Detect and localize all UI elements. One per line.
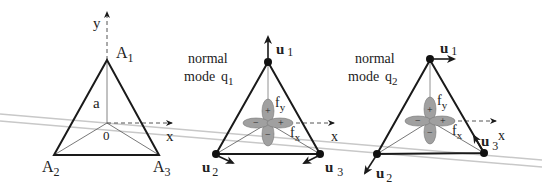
u2-label: u2	[202, 159, 218, 179]
svg-text:+: +	[265, 105, 271, 116]
vertex-label-a2: A2	[42, 158, 60, 179]
u1-label: u1	[276, 41, 293, 59]
svg-text:−: −	[427, 127, 433, 138]
origin-label: 0	[103, 128, 110, 143]
svg-text:+: +	[278, 117, 284, 128]
height-label: a	[93, 95, 100, 111]
svg-text:+: +	[440, 115, 446, 126]
u3-label: u3	[325, 159, 343, 179]
u1-label: u1	[440, 40, 457, 58]
svg-text:−: −	[253, 117, 259, 128]
fx-label: fx	[290, 125, 301, 143]
displacement-arrow-u3	[304, 156, 318, 163]
displacement-arrow-u2	[365, 156, 376, 173]
u2-label: u2	[376, 165, 392, 185]
displacement-arrow-u2	[218, 156, 233, 163]
mode-title-line2: modeq1	[184, 69, 234, 87]
mode-title-line2: modeq2	[348, 69, 398, 87]
svg-text:+: +	[427, 104, 433, 115]
mode-title-line1: normal	[355, 51, 395, 66]
x-axis-label: x	[331, 129, 338, 144]
x-axis-label: x	[166, 128, 174, 144]
atom-3	[480, 149, 488, 157]
panel-mode-q2: normal modeq2 x + + − − fy fx	[348, 40, 505, 185]
panel-mode-q1: normal modeq1 x + + − − fy fx	[184, 37, 343, 179]
fy-label: fy	[437, 93, 448, 111]
svg-text:−: −	[265, 129, 271, 140]
panel-reference: y x a 0 A1 A2 A3	[42, 12, 174, 179]
fx-label: fx	[452, 123, 463, 141]
svg-text:−: −	[415, 115, 421, 126]
vertex-label-a1: A1	[116, 44, 134, 65]
normal-modes-diagram: y x a 0 A1 A2 A3 normal modeq1 x + + − −…	[0, 0, 542, 191]
mode-title-line1: normal	[188, 51, 228, 66]
vertex-label-a3: A3	[153, 158, 171, 179]
atom-2	[373, 150, 381, 158]
x-axis-label: x	[498, 128, 505, 143]
y-axis-label: y	[93, 15, 101, 31]
fy-label: fy	[275, 95, 286, 113]
